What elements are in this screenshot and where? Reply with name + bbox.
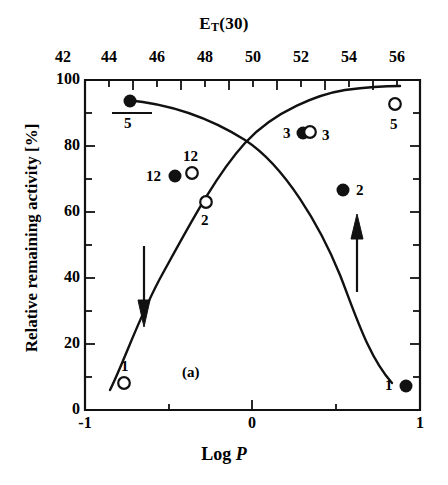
point-label-open-2: 2 [201,212,209,229]
data-point-open-2 [200,196,212,208]
open-marker-group [118,98,401,389]
bottom-axis-ticks [169,400,336,410]
data-point-filled-12 [169,170,182,183]
point-label-filled-3: 3 [283,125,291,142]
data-point-filled-1 [400,380,413,393]
down-arrow-icon [138,246,150,327]
data-point-filled-5 [124,95,137,108]
panel-label: (a) [182,364,200,381]
point-label-open-12: 12 [183,148,198,165]
point-label-filled-2: 2 [356,182,364,199]
data-point-open-3 [304,126,316,138]
right-axis-ticks [410,113,420,410]
up-arrow-icon [351,214,363,292]
axes-frame [85,80,420,410]
point-label-open-5: 5 [390,116,398,133]
point-label-open-3: 3 [322,127,330,144]
point-label-open-1: 1 [121,358,129,375]
data-point-filled-2 [337,184,350,197]
data-point-open-5 [389,98,401,110]
data-point-open-12 [186,167,198,179]
descending-curve [127,100,392,383]
left-axis-ticks [85,113,95,410]
plot-area [0,0,448,485]
data-point-open-1 [118,377,130,389]
point-label-filled-5: 5 [124,115,132,132]
figure-panel-a: ET(30) 42 44 46 48 50 52 54 56 Relative … [0,0,448,485]
point-label-filled-12: 12 [146,168,161,185]
point-label-filled-1: 1 [385,377,393,394]
